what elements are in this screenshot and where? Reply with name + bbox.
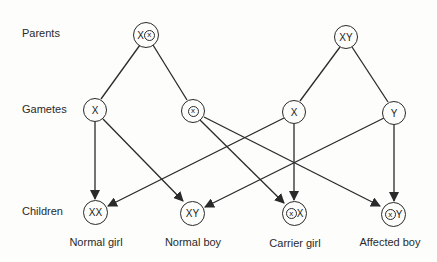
child-normal-girl-node: XX <box>83 200 108 225</box>
gamete-father-x: X <box>282 100 306 124</box>
child-label-normal-boy: Normal boy <box>165 236 221 248</box>
parent-father-node: XY <box>334 25 358 49</box>
child-label-carrier-girl: Carrier girl <box>269 237 320 249</box>
row-label-children: Children <box>22 205 63 217</box>
edge-mother-gamete-mutant <box>153 45 187 100</box>
child-label-affected-boy: Affected boy <box>360 236 421 248</box>
parent-mother-node: Xx <box>133 22 159 48</box>
arrow-fx-to-xx <box>108 118 284 206</box>
gamete-mother-mutant: x <box>181 99 205 123</box>
carrier-mutant-allele: x <box>286 208 297 219</box>
child-affected-boy-node: xY <box>381 202 406 227</box>
child-normal-boy-node: XY <box>180 201 205 226</box>
row-label-parents: Parents <box>22 27 60 39</box>
inheritance-edges <box>0 0 437 262</box>
gamete-mother-x: X <box>83 98 107 122</box>
row-label-gametes: Gametes <box>22 103 67 115</box>
mother-allele-normal: X <box>137 30 144 41</box>
carrier-other-allele: X <box>297 208 304 219</box>
edge-father-gamete-x <box>300 47 340 101</box>
arrow-mutant-to-carrier <box>200 120 284 203</box>
child-label-normal-girl: Normal girl <box>69 236 122 248</box>
edge-mother-gamete-x <box>101 45 140 99</box>
gamete-father-y: Y <box>382 101 406 125</box>
arrow-mutant-to-affected <box>204 117 380 206</box>
child-carrier-girl-node: xX <box>282 201 307 226</box>
affected-other-allele: Y <box>396 209 403 220</box>
edge-father-gamete-y <box>352 47 388 102</box>
gamete-mutant-allele: x <box>188 106 199 117</box>
mother-allele-mutant: x <box>144 30 155 41</box>
affected-mutant-allele: x <box>385 209 396 220</box>
